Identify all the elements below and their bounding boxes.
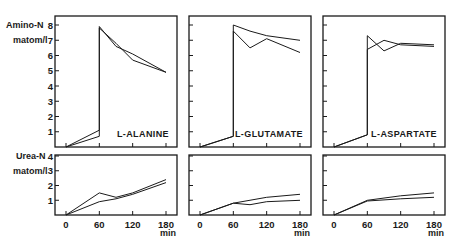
y-tick-label: 2 bbox=[48, 180, 53, 191]
y-tick-label: 4 bbox=[48, 151, 54, 162]
series-line-b bbox=[334, 197, 434, 215]
y-tick-label: 3 bbox=[48, 165, 53, 176]
panel-frame bbox=[189, 155, 311, 215]
bottom-ylabel-line2: matom/l bbox=[13, 166, 48, 176]
panel-top-middle: L-GLUTAMATE bbox=[189, 16, 311, 147]
top-ylabel-line1: Amino-N bbox=[6, 20, 44, 30]
x-unit-label: min bbox=[160, 228, 176, 238]
panel-frame bbox=[323, 155, 445, 215]
y-tick-label: 4 bbox=[48, 81, 54, 92]
x-tick-label: 0 bbox=[63, 219, 68, 230]
x-tick-label: 60 bbox=[228, 219, 239, 230]
x-tick-label: 0 bbox=[197, 219, 202, 230]
x-tick-label: 60 bbox=[362, 219, 373, 230]
y-tick-label: 3 bbox=[48, 96, 53, 107]
x-unit-label: min bbox=[294, 228, 310, 238]
series-line-b bbox=[66, 183, 166, 215]
figure: Amino-N matom/l Urea-N matom/l 12345678L… bbox=[0, 0, 457, 247]
y-tick-label: 6 bbox=[48, 50, 53, 61]
chart-panels: 12345678L-ALANINEL-GLUTAMATEL-ASPARTATE1… bbox=[48, 16, 445, 238]
y-tick-label: 8 bbox=[48, 20, 53, 31]
bottom-ylabel-line1: Urea-N bbox=[16, 151, 46, 161]
top-ylabel-line2: matom/l bbox=[13, 35, 48, 45]
x-unit-label: min bbox=[428, 228, 444, 238]
panel-frame bbox=[55, 16, 177, 147]
panel-bottom-left: 1234060120180min bbox=[48, 151, 177, 239]
series-line-a bbox=[66, 180, 166, 215]
y-tick-label: 2 bbox=[48, 111, 53, 122]
x-tick-label: 0 bbox=[331, 219, 336, 230]
panel-title: L-ASPARTATE bbox=[371, 129, 437, 139]
series-line-a bbox=[334, 193, 434, 215]
x-tick-label: 120 bbox=[125, 219, 141, 230]
y-tick-label: 1 bbox=[48, 126, 54, 137]
series-line-b bbox=[200, 200, 300, 215]
y-tick-label: 7 bbox=[48, 35, 53, 46]
x-tick-label: 120 bbox=[259, 219, 275, 230]
x-tick-label: 120 bbox=[393, 219, 409, 230]
panel-bottom-right: 060120180min bbox=[323, 155, 445, 238]
figure-caption bbox=[40, 238, 450, 247]
panel-bottom-middle: 060120180min bbox=[189, 155, 311, 238]
panel-top-right: L-ASPARTATE bbox=[323, 16, 445, 147]
y-tick-label: 5 bbox=[48, 65, 54, 76]
panel-title: L-ALANINE bbox=[117, 129, 169, 139]
panel-frame bbox=[189, 16, 311, 147]
panel-title: L-GLUTAMATE bbox=[235, 129, 303, 139]
x-tick-label: 60 bbox=[94, 219, 105, 230]
panel-top-left: 12345678L-ALANINE bbox=[48, 16, 177, 147]
y-tick-label: 1 bbox=[48, 195, 54, 206]
panel-frame bbox=[323, 16, 445, 147]
